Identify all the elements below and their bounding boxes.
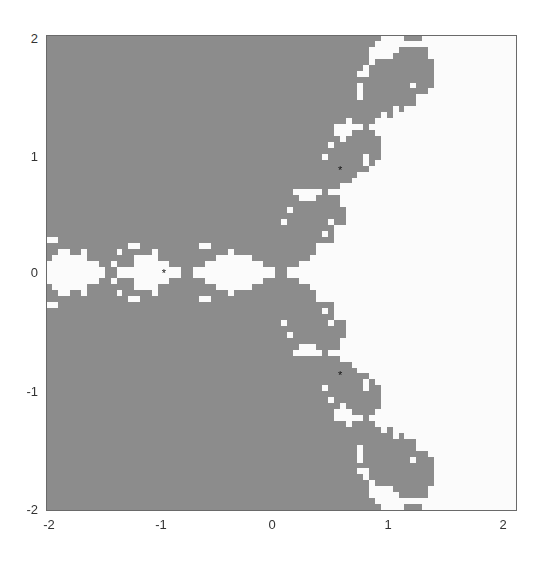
y-tick-label: 2	[14, 32, 38, 45]
x-tick-label: -1	[146, 518, 176, 531]
x-tick-label: -2	[34, 518, 64, 531]
basin-fractal-figure: 2 1 0 -1 -2 -2 -1 0 1 2 * * *	[0, 0, 549, 568]
root-marker-asterisk: *	[160, 269, 169, 278]
y-tick-label: 0	[14, 266, 38, 279]
root-marker-asterisk: *	[336, 166, 345, 175]
y-tick-label: -1	[14, 385, 38, 398]
x-tick-label: 2	[488, 518, 518, 531]
basin-heatmap	[46, 35, 516, 510]
x-tick-label: 1	[373, 518, 403, 531]
x-tick-label: 0	[257, 518, 287, 531]
y-tick-label: -2	[14, 503, 38, 516]
y-tick-label: 1	[14, 150, 38, 163]
root-marker-asterisk: *	[336, 371, 345, 380]
